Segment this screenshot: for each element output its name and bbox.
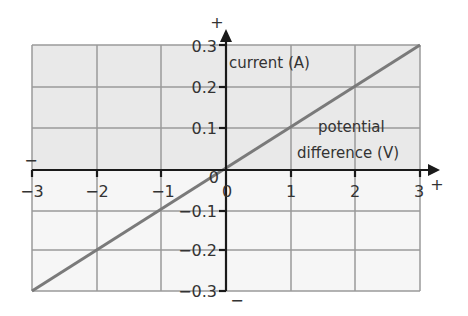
svg-text:2: 2	[350, 182, 360, 201]
svg-text:−0.1: −0.1	[178, 202, 217, 221]
svg-text:−0.3: −0.3	[178, 282, 217, 301]
x-axis-label-line2: difference (V)	[297, 144, 399, 162]
y-axis-label: current (A)	[229, 54, 310, 72]
svg-text:1: 1	[286, 182, 296, 201]
svg-text:0.2: 0.2	[192, 78, 217, 97]
svg-text:0: 0	[222, 182, 232, 201]
svg-text:−2: −2	[85, 182, 109, 201]
svg-text:−1: −1	[151, 182, 175, 201]
x-positive-sign: +	[430, 175, 443, 194]
svg-text:0.3: 0.3	[192, 37, 217, 56]
svg-text:0.1: 0.1	[192, 119, 217, 138]
svg-text:3: 3	[414, 182, 424, 201]
svg-text:0: 0	[209, 168, 219, 187]
x-axis-label-line1: potential	[318, 118, 385, 136]
svg-text:−0.2: −0.2	[178, 241, 217, 260]
svg-text:−3: −3	[20, 182, 44, 201]
x-negative-sign: −	[24, 151, 37, 170]
y-negative-sign: −	[230, 291, 243, 310]
iv-chart: −3 −2 −1 0 1 2 3 0.3 0.2 0.1 0 −0.1 −0.2…	[0, 0, 468, 316]
y-positive-sign: +	[210, 13, 223, 32]
